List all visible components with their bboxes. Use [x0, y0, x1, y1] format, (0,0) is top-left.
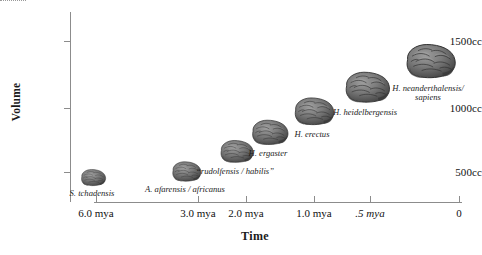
- data-point: H. neanderthalensis/ sapiens: [398, 42, 458, 83]
- species-label: H. heidelbergensis: [333, 108, 397, 117]
- y-axis-tick: [64, 172, 71, 173]
- x-axis-tick-label: .5 mya: [355, 207, 384, 219]
- x-axis-tick-label: 3.0 mya: [180, 207, 215, 219]
- x-axis-tick-label: 0: [456, 207, 462, 219]
- species-label: H. erectus: [295, 130, 330, 139]
- x-axis-tick: [198, 196, 199, 202]
- species-label: “rudolfensis / habilis”: [196, 167, 274, 176]
- species-label: A. afarensis / africanus: [145, 185, 225, 194]
- x-axis-tick-label: 1.0 mya: [296, 207, 331, 219]
- data-point: S. tchadensis: [77, 168, 107, 188]
- brain-icon: [77, 168, 107, 188]
- data-point: H. erectus: [288, 96, 336, 129]
- x-axis-tick: [246, 196, 247, 202]
- x-axis-line: [94, 202, 462, 203]
- data-point: H. ergaster: [246, 118, 290, 148]
- x-axis-dotted-segment: [0, 0, 26, 1]
- x-axis-tick-label: 6.0 mya: [78, 207, 113, 219]
- y-axis-tick-label: 1000cc: [424, 103, 482, 114]
- brain-icon: [288, 96, 336, 129]
- x-axis-title: Time: [0, 229, 482, 244]
- y-axis-title: Volume: [10, 67, 22, 137]
- x-axis-tick: [459, 196, 460, 202]
- x-axis-tick-label: 2.0 mya: [228, 207, 263, 219]
- y-axis-tick: [64, 108, 71, 109]
- y-axis-tick-label: 500cc: [424, 167, 482, 178]
- y-axis-tick: [64, 41, 71, 42]
- species-label: H. neanderthalensis/ sapiens: [392, 84, 464, 103]
- data-point: H. heidelbergensis: [338, 70, 392, 107]
- brain-icon: [246, 118, 290, 148]
- brain-icon: [338, 70, 392, 107]
- brain-volume-evolution-chart: 1500cc1000cc500cc 6.0 mya3.0 mya2.0 mya1…: [0, 0, 482, 255]
- brain-icon: [398, 42, 458, 83]
- x-axis-tick: [314, 196, 315, 202]
- species-label: S. tchadensis: [70, 189, 115, 198]
- x-axis-tick: [370, 196, 371, 202]
- species-label: H. ergaster: [249, 149, 288, 158]
